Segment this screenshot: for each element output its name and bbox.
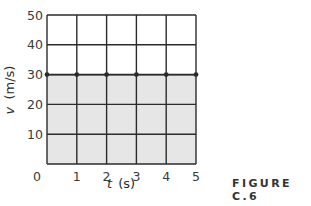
x-axis-label: t (s) [107, 176, 135, 191]
data-point [74, 72, 79, 77]
y-axis-label: v (m/s) [2, 66, 17, 115]
data-point [104, 72, 109, 77]
x-tick-label: 0 [33, 169, 41, 184]
data-point [134, 72, 139, 77]
x-tick-label: 1 [73, 169, 81, 184]
velocity-time-chart: 1020304050 012345 v (m/s) t (s) [0, 0, 311, 206]
y-tick-label: 30 [27, 67, 43, 82]
y-axis-ticks: 1020304050 [27, 8, 43, 142]
x-tick-label: 5 [192, 169, 200, 184]
shaded-region [47, 75, 196, 164]
data-point [45, 72, 50, 77]
x-axis-ticks: 012345 [33, 169, 200, 184]
y-tick-label: 40 [27, 37, 43, 52]
y-tick-label: 20 [27, 97, 43, 112]
shaded-area-under-line [47, 75, 196, 164]
y-tick-label: 10 [27, 127, 43, 142]
data-point [164, 72, 169, 77]
figure-caption: FIGURE C.6 [232, 177, 311, 203]
data-point [194, 72, 199, 77]
y-tick-label: 50 [27, 8, 43, 23]
x-tick-label: 4 [162, 169, 170, 184]
